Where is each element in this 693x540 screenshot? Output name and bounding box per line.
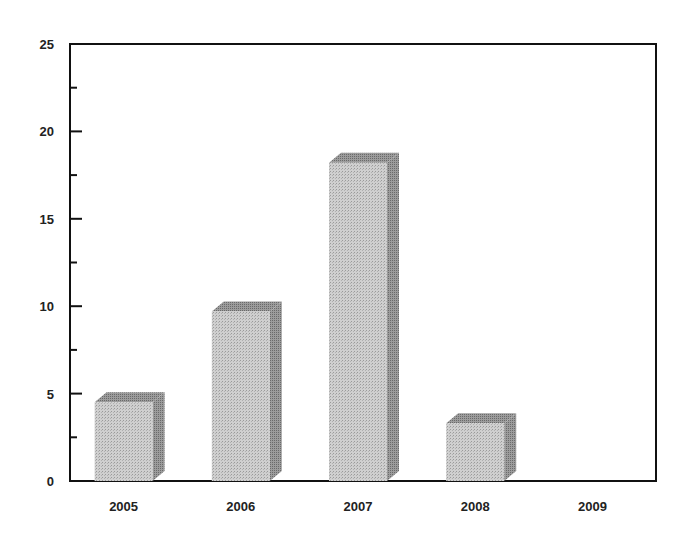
x-tick-label: 2006 bbox=[226, 499, 255, 514]
x-tick-label: 2005 bbox=[109, 499, 138, 514]
bar-chart: 0510152025 20052006200720082009 bbox=[0, 0, 693, 540]
y-tick-label: 10 bbox=[40, 299, 54, 314]
bar-top bbox=[212, 301, 282, 311]
x-tick-label: 2008 bbox=[461, 499, 490, 514]
bar-side bbox=[153, 392, 165, 481]
y-axis: 0510152025 bbox=[40, 37, 82, 489]
y-tick-label: 20 bbox=[40, 124, 54, 139]
bar-side bbox=[387, 153, 399, 481]
bar-side bbox=[270, 301, 282, 481]
y-tick-label: 15 bbox=[40, 212, 54, 227]
bar-front bbox=[212, 311, 270, 481]
bar-top bbox=[446, 413, 516, 423]
bar-2005 bbox=[95, 392, 165, 481]
bar-side bbox=[504, 413, 516, 481]
bar-2007 bbox=[329, 153, 399, 481]
bar-2006 bbox=[212, 301, 282, 481]
bars bbox=[95, 153, 517, 481]
x-tick-label: 2009 bbox=[578, 499, 607, 514]
y-tick-label: 25 bbox=[40, 37, 54, 52]
bar-top bbox=[329, 153, 399, 163]
bar-top bbox=[95, 392, 165, 402]
x-axis: 20052006200720082009 bbox=[109, 499, 607, 514]
bar-front bbox=[95, 402, 153, 481]
y-tick-label: 0 bbox=[47, 474, 54, 489]
bar-2008 bbox=[446, 413, 516, 481]
y-tick-label: 5 bbox=[47, 387, 54, 402]
bar-front bbox=[329, 163, 387, 481]
x-tick-label: 2007 bbox=[344, 499, 373, 514]
bar-front bbox=[446, 423, 504, 481]
